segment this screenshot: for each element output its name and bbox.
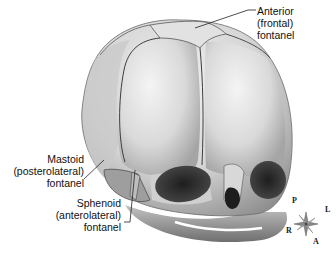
label-line: (anterolateral) [40, 209, 121, 221]
label-line: (frontal) [257, 17, 294, 29]
label-line: fontanel [40, 221, 121, 233]
compass-label-a: A [313, 237, 319, 246]
label-line: Sphenoid [40, 197, 121, 209]
frontal-bone-right [205, 42, 286, 176]
label-line: Mastoid [0, 153, 84, 165]
right-orbit [250, 161, 286, 199]
compass-rose-icon [294, 212, 318, 236]
label-line: Anterior [257, 5, 294, 17]
mastoid-fontanel-label: Mastoid (posterolateral) fontanel [0, 153, 84, 189]
compass-label-l: L [325, 205, 330, 214]
label-line: (posterolateral) [0, 165, 84, 177]
label-line: fontanel [0, 177, 84, 189]
compass-label-r: R [286, 226, 292, 235]
anterior-fontanel-label: Anterior (frontal) fontanel [257, 5, 294, 41]
fetal-skull-diagram: Anterior (frontal) fontanel Mastoid (pos… [0, 0, 336, 260]
label-line: fontanel [257, 29, 294, 41]
sphenoid-fontanel-label: Sphenoid (anterolateral) fontanel [40, 197, 121, 233]
compass-label-p: P [292, 196, 297, 205]
frontal-bone-left [116, 36, 200, 178]
